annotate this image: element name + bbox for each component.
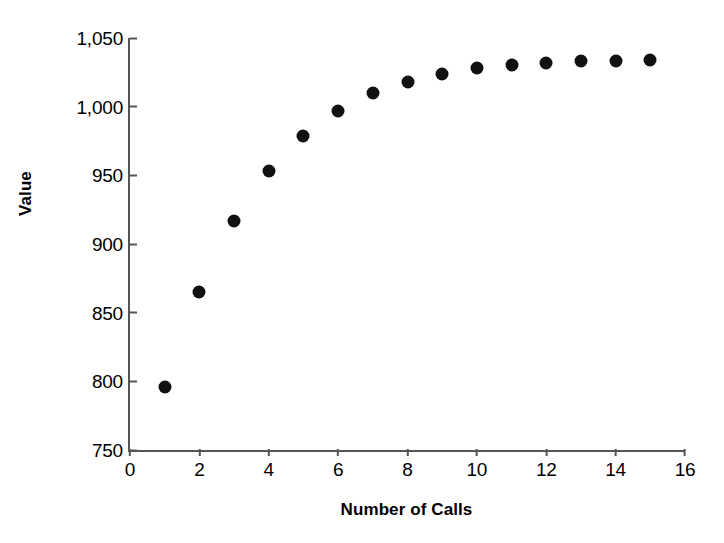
x-axis-tick: 8 [402,450,412,479]
x-axis-tick-label: 16 [675,460,696,479]
x-axis-tick: 12 [536,450,557,479]
y-axis-tick-label: 1,050 [76,29,130,48]
x-axis-tick-label: 4 [264,460,274,479]
x-axis-tick-label: 12 [536,460,557,479]
x-axis-tick-label: 0 [125,460,135,479]
data-point [505,59,518,72]
y-axis-tick-label: 800 [92,372,130,391]
data-point [401,75,414,88]
x-axis-tick-label: 8 [402,460,412,479]
data-point [366,86,379,99]
y-axis-tick: 1,050 [76,29,130,48]
x-axis-tick: 0 [125,450,135,479]
x-axis-tick-mark [337,449,339,456]
y-axis-tick-label: 900 [92,235,130,254]
scatter-chart-figure: 7508008509009501,0001,0500246810121416 N… [0,0,724,543]
y-axis-tick-label: 950 [92,166,130,185]
data-point [158,380,171,393]
y-axis-tick: 900 [92,235,130,254]
x-axis-tick: 4 [264,450,274,479]
x-axis-tick-label: 6 [333,460,343,479]
x-axis-tick: 14 [605,450,626,479]
data-point [540,56,553,69]
x-axis-tick-mark [129,449,131,456]
x-axis-tick-label: 14 [605,460,626,479]
y-axis-tick-mark [130,380,137,382]
x-axis-tick-mark [476,449,478,456]
y-axis-tick-mark [130,243,137,245]
data-point [574,55,587,68]
data-point [609,55,622,68]
data-point [297,129,310,142]
x-axis-title: Number of Calls [128,500,685,520]
plot-area: 7508008509009501,0001,0500246810121416 [128,38,685,452]
data-point [228,214,241,227]
y-axis-tick: 800 [92,372,130,391]
data-point [262,165,275,178]
y-axis-tick-mark [130,174,137,176]
x-axis-tick-mark [615,449,617,456]
data-point [644,53,657,66]
y-axis-tick-label: 850 [92,303,130,322]
y-axis-title: Value [16,171,36,216]
y-axis-tick-label: 1,000 [76,97,130,116]
data-point [193,286,206,299]
data-point [436,67,449,80]
x-axis-tick: 2 [194,450,204,479]
x-axis-tick: 10 [467,450,488,479]
x-axis-tick-label: 2 [194,460,204,479]
x-axis-tick-mark [545,449,547,456]
x-axis-tick-mark [198,449,200,456]
y-axis-tick: 950 [92,166,130,185]
x-axis-tick-mark [407,449,409,456]
x-axis-tick: 6 [333,450,343,479]
y-axis-tick: 1,000 [76,97,130,116]
y-axis-tick-mark [130,37,137,39]
x-axis-tick: 16 [675,450,696,479]
x-axis-tick-label: 10 [467,460,488,479]
x-axis-tick-mark [684,449,686,456]
data-point [470,62,483,75]
y-axis-tick-mark [130,312,137,314]
y-axis-tick: 850 [92,303,130,322]
data-point [332,104,345,117]
x-axis-tick-mark [268,449,270,456]
y-axis-tick-mark [130,106,137,108]
